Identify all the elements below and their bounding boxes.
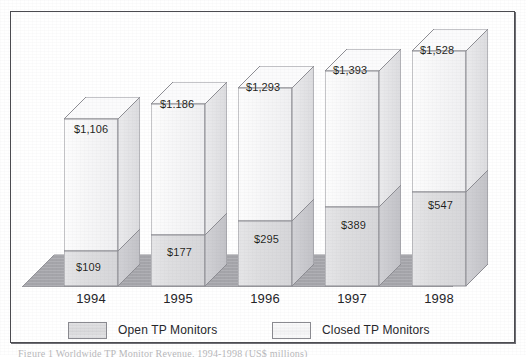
figure-caption: Figure 1 Worldwide TP Monitor Revenue, 1… (18, 348, 510, 357)
legend-item-closed[interactable]: Closed TP Monitors (272, 317, 430, 343)
axis-label-1995: 1995 (148, 291, 208, 306)
value-label-1997-open: $389 (341, 219, 366, 231)
value-label-1996-closed: $1,293 (246, 81, 280, 93)
legend-item-open[interactable]: Open TP Monitors (68, 317, 217, 343)
legend-label-open: Open TP Monitors (118, 323, 217, 337)
bar-1997[interactable] (325, 49, 401, 287)
value-label-1998-open: $547 (428, 199, 453, 211)
bar-1996[interactable] (238, 66, 314, 287)
axis-label-1996: 1996 (235, 291, 295, 306)
open-swatch-icon (68, 322, 107, 339)
plot-area: $1,106 $109 $1.186 $177 $1,293 (10, 11, 515, 343)
axis-label-1994: 1994 (61, 291, 121, 306)
value-label-1998-closed: $1,528 (420, 44, 454, 56)
closed-swatch-icon (272, 322, 311, 339)
axis-label-1997: 1997 (322, 291, 382, 306)
legend-label-closed: Closed TP Monitors (322, 323, 430, 337)
value-label-1994-open: $109 (76, 261, 101, 273)
value-label-1994-closed: $1,106 (74, 123, 108, 135)
axis-label-1998: 1998 (409, 291, 469, 306)
chart-legend: Open TP Monitors Closed TP Monitors (10, 317, 515, 343)
bar-1998[interactable] (412, 29, 488, 287)
value-label-1995-open: $177 (167, 246, 192, 258)
value-label-1997-closed: $1,393 (333, 64, 367, 76)
value-label-1995-closed: $1.186 (160, 98, 194, 110)
value-label-1996-open: $295 (254, 233, 279, 245)
